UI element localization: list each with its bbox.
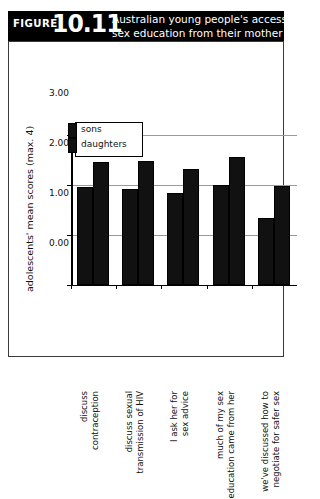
legend-swatch-sons (68, 123, 77, 138)
figure-label: FIGURE (13, 17, 58, 30)
bar-sons (77, 187, 93, 286)
bar-sons (167, 193, 183, 286)
bar-daughters (274, 186, 290, 285)
bar-sons (213, 185, 229, 285)
figure-title: Australian young people's access to sex … (112, 12, 292, 40)
bar-sons (258, 218, 274, 286)
x-axis-label: negotiate for safer sex (271, 391, 320, 401)
legend-item-sons: sons (76, 123, 142, 138)
plot-area (71, 135, 297, 285)
bar-sons (122, 189, 138, 285)
chart-frame: adolescents' mean scores (max. 4) 0.001.… (8, 41, 284, 357)
x-tick-mark (71, 285, 72, 289)
y-tick-label-wrap: 1.00 (31, 188, 69, 200)
legend: sons daughters (75, 122, 143, 157)
x-tick-mark (207, 285, 208, 289)
legend-swatch-daughters (68, 138, 77, 153)
bar-daughters (93, 162, 109, 286)
y-tick-label: 2.00 (35, 138, 69, 148)
y-axis-line (71, 135, 73, 286)
figure-title-line-1: Australian young people's access to (112, 12, 292, 26)
legend-label-daughters: daughters (81, 139, 127, 149)
x-tick-mark (252, 285, 253, 289)
y-tick-label-wrap: 3.00 (31, 88, 69, 100)
bar-daughters (183, 169, 199, 285)
y-tick-label-wrap: 0.00 (31, 238, 69, 250)
x-tick-mark (116, 285, 117, 289)
legend-label-sons: sons (81, 124, 102, 134)
y-tick-label: 3.00 (35, 88, 69, 98)
y-tick-label: 0.00 (35, 238, 69, 248)
bar-daughters (138, 161, 154, 285)
bar-daughters (229, 157, 245, 286)
figure-title-line-2: sex education from their mother (112, 26, 292, 40)
y-tick-label-wrap: 2.00 (31, 138, 69, 150)
x-tick-mark (161, 285, 162, 289)
figure-banner: FIGURE 10.11 Australian young people's a… (8, 11, 284, 41)
legend-item-daughters: daughters (76, 138, 142, 153)
x-axis-tick-labels: discusscontraceptiondiscuss sexualtransm… (71, 291, 297, 396)
y-tick-label: 1.00 (35, 188, 69, 198)
